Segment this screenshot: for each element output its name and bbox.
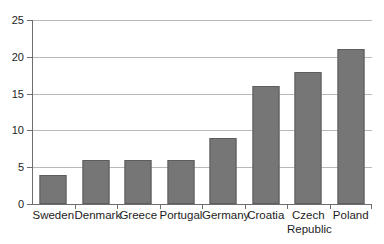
- bar-greece[interactable]: [125, 160, 152, 204]
- x-label-denmark: Denmark: [75, 209, 118, 223]
- x-label-germany: Germany: [202, 209, 245, 223]
- y-tick-label-25: 25: [0, 15, 24, 26]
- x-label-poland: Poland: [330, 209, 373, 223]
- bar-slot-portugal: [160, 20, 203, 204]
- bar-slot-germany: [202, 20, 245, 204]
- x-label-croatia: Croatia: [245, 209, 288, 223]
- bar-slot-czech-republic: [287, 20, 330, 204]
- bar-slot-sweden: [32, 20, 75, 204]
- bar-sweden[interactable]: [40, 175, 67, 204]
- bar-poland[interactable]: [337, 49, 364, 204]
- y-tick-label-0: 0: [0, 199, 24, 210]
- bar-denmark[interactable]: [82, 160, 109, 204]
- x-axis-labels: Sweden Denmark Greece Portugal Germany C…: [32, 209, 372, 243]
- bar-chart: 25 20 15 10 5 0 Sweden Denmark Greece Po…: [0, 0, 384, 244]
- bar-czech-republic[interactable]: [295, 72, 322, 204]
- x-label-sweden: Sweden: [32, 209, 75, 223]
- y-tick-label-20: 20: [0, 52, 24, 63]
- bars-layer: [32, 20, 372, 204]
- bar-germany[interactable]: [210, 138, 237, 204]
- y-tick-label-5: 5: [0, 162, 24, 173]
- x-label-czech-republic: Czech Republic: [287, 209, 330, 236]
- y-tick-label-10: 10: [0, 125, 24, 136]
- bar-slot-croatia: [245, 20, 288, 204]
- bar-portugal[interactable]: [167, 160, 194, 204]
- bar-slot-denmark: [75, 20, 118, 204]
- y-tick-label-15: 15: [0, 89, 24, 100]
- bar-croatia[interactable]: [252, 86, 279, 204]
- bar-slot-poland: [330, 20, 373, 204]
- x-label-greece: Greece: [117, 209, 160, 223]
- x-label-portugal: Portugal: [160, 209, 203, 223]
- y-tick-mark-0: [27, 204, 32, 205]
- bar-slot-greece: [117, 20, 160, 204]
